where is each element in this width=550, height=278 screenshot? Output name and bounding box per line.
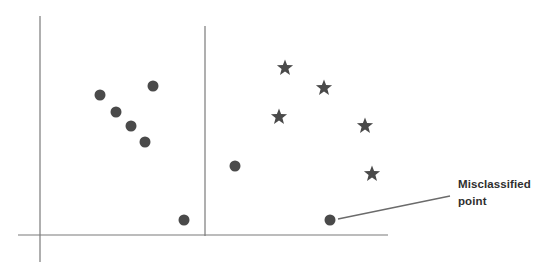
callout-leader-group	[338, 196, 450, 219]
data-point-star	[316, 80, 332, 95]
data-point-circle	[148, 81, 159, 92]
data-point-star	[364, 166, 380, 181]
scatter-diagram-canvas: Misclassified point	[0, 0, 550, 278]
data-point-circle	[126, 121, 137, 132]
data-point-circle	[325, 215, 336, 226]
data-point-circle	[95, 90, 106, 101]
data-point-circle	[111, 107, 122, 118]
data-point-star	[277, 60, 293, 75]
data-point-circle	[140, 137, 151, 148]
data-point-star	[271, 109, 287, 124]
axes-group	[18, 16, 388, 262]
class-b-star-markers	[271, 60, 380, 181]
callout-leader-line	[338, 196, 450, 219]
plot-area	[0, 0, 550, 278]
data-point-circle	[179, 215, 190, 226]
misclassified-label-line-1: Misclassified	[458, 176, 531, 193]
data-point-star	[357, 118, 373, 133]
class-a-circle-markers	[95, 81, 336, 226]
misclassified-label-line-2: point	[458, 193, 487, 210]
data-point-circle	[230, 161, 241, 172]
